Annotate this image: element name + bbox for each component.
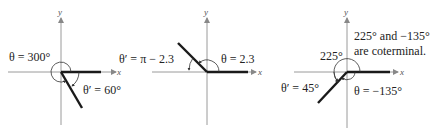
reference-angles-diagram: x y θ = 300° θ′ = 60° x y θ = 2.3 θ′ = π… [0,0,434,134]
y-axis-label: y [57,7,62,17]
panel-300-degrees: x y θ = 300° θ′ = 60° [8,7,121,125]
x-axis-label: x [257,67,262,77]
y-axis-label: y [343,7,348,17]
y-axis-label: y [203,7,208,17]
terminal-side [61,72,82,108]
x-axis-label: x [399,67,404,77]
theta-label: θ = 300° [9,50,51,64]
x-axis-label: x [116,67,121,77]
225-label: 225° [320,49,343,63]
panel-negative-135-degrees: x y 225° θ = −135° θ′ = 45° 225° and −13… [281,7,430,128]
reference-angle-label: θ′ = 60° [83,83,121,97]
coterminal-note-line1: 225° and −135° [354,29,430,43]
coterminal-note-line2: are coterminal. [354,44,426,58]
reference-angle-label: θ′ = π − 2.3 [119,52,174,66]
theta-label: θ = 2.3 [221,52,255,66]
terminal-side [178,43,207,72]
reference-arc [72,72,79,86]
theta-label: θ = −135° [354,84,402,98]
panel-2-3-radians: x y θ = 2.3 θ′ = π − 2.3 [119,7,262,125]
reference-angle-label: θ′ = 45° [281,81,319,95]
reference-arc [189,58,193,70]
terminal-side [318,72,347,103]
